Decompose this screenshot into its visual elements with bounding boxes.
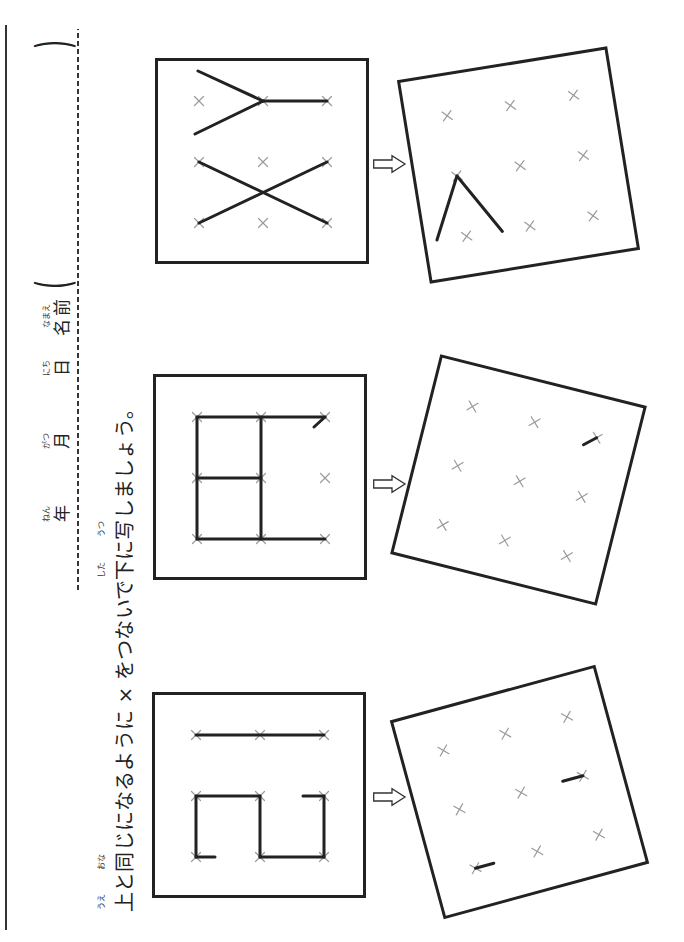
copy-area-2 bbox=[390, 354, 647, 606]
arrow-shape bbox=[374, 156, 405, 173]
name-open-paren: ( bbox=[28, 280, 78, 289]
model-figure-3 bbox=[155, 58, 369, 264]
instruction-text-part: しましょう。 bbox=[113, 399, 137, 519]
year-field: 年ねん bbox=[53, 505, 71, 522]
arrow-shape bbox=[374, 476, 405, 493]
year-furigana: ねん bbox=[42, 506, 51, 522]
name-field: 名前なまえ bbox=[53, 296, 71, 336]
instruction-furigana: した bbox=[97, 562, 106, 578]
copy-figure-1 bbox=[390, 665, 650, 920]
instruction-text: 上うえと同おなじになるように × をつないで下したに写うつしましょう。 bbox=[114, 399, 136, 912]
year-label: 年 bbox=[52, 505, 72, 522]
name-ruby-group: 名前なまえ bbox=[53, 296, 71, 336]
copy-area-3 bbox=[397, 46, 640, 283]
day-label: 日 bbox=[52, 359, 72, 376]
day-furigana: にち bbox=[42, 360, 51, 376]
month-furigana: がつ bbox=[42, 433, 51, 449]
month-ruby-group: 月がつ bbox=[53, 432, 71, 449]
model-figure-2 bbox=[153, 374, 367, 580]
instruction-ruby-group: 写うつ bbox=[114, 519, 136, 539]
instruction-text-part: と bbox=[113, 872, 137, 892]
instruction-kanji: 下 bbox=[113, 560, 137, 580]
instruction-ruby-group: 上うえ bbox=[114, 892, 136, 912]
year-ruby-group: 年ねん bbox=[53, 505, 71, 522]
worksheet-page: 年ねん 月がつ 日にち 名前なまえ ( ) 上うえと同おなじになるように × を… bbox=[0, 0, 684, 942]
month-label: 月 bbox=[52, 432, 72, 449]
hollow-arrow-icon bbox=[373, 155, 406, 173]
copy-figure-2 bbox=[390, 354, 647, 606]
instruction-text-part: に bbox=[113, 540, 137, 560]
instruction-kanji: 上 bbox=[113, 892, 137, 912]
instruction-text-part: じになるように × をつないで bbox=[113, 580, 137, 851]
copy-area-1 bbox=[390, 665, 650, 920]
day-field: 日にち bbox=[53, 359, 71, 376]
name-furigana: なまえ bbox=[42, 304, 51, 328]
day-ruby-group: 日にち bbox=[53, 359, 71, 376]
model-figure-1 bbox=[152, 692, 366, 898]
instruction-kanji: 写 bbox=[113, 519, 137, 539]
name-close-paren: ) bbox=[28, 40, 78, 49]
instruction-furigana: おな bbox=[97, 854, 106, 870]
arrow-shape bbox=[374, 789, 405, 806]
hollow-arrow-icon bbox=[373, 475, 406, 493]
name-label: 名前 bbox=[52, 296, 72, 336]
instruction-kanji: 同 bbox=[113, 851, 137, 871]
month-field: 月がつ bbox=[53, 432, 71, 449]
hollow-arrow-icon bbox=[373, 788, 406, 806]
instruction-ruby-group: 下した bbox=[114, 560, 136, 580]
name-underline-dashed bbox=[77, 29, 79, 590]
top-border-line bbox=[5, 25, 7, 930]
instruction-ruby-group: 同おな bbox=[114, 851, 136, 871]
instruction-furigana: うつ bbox=[97, 521, 106, 537]
copy-figure-3 bbox=[397, 46, 640, 283]
instruction-furigana: うえ bbox=[97, 894, 106, 910]
